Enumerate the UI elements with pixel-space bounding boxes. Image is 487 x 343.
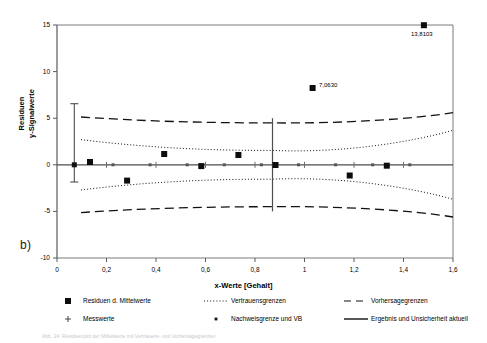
y-tick-m10: -10 (30, 254, 50, 261)
legend-label-residuen: Residuen d. Mittelwerte (81, 297, 151, 304)
prediction-limit-upper (81, 113, 453, 123)
figure-caption-fragment: Abb. 24: Residuenplot der Mittelwerte mi… (42, 333, 442, 339)
x-tick-04: 0,4 (146, 266, 166, 273)
dashed-line-icon (343, 296, 369, 306)
y-axis-title-line1: Residuen (17, 97, 26, 131)
panel-label: b) (20, 238, 31, 252)
result-uncertainty-errorbar (70, 104, 78, 182)
y-tick-0: 0 (30, 161, 50, 168)
residual-plot-figure: 15 10 5 0 -5 -10 0 0,2 0,4 0,6 0,8 1 1,2… (0, 0, 487, 343)
x-tick-0: 0 (47, 266, 67, 273)
y-axis-title: Residuen y-Signalwerte (17, 66, 36, 162)
confidence-limit-lower (81, 179, 453, 200)
legend-item-vorhersagegrenzen: Vorhersagegrenzen (343, 293, 475, 308)
prediction-limit-lower (81, 207, 453, 217)
y-tick-15: 15 (30, 21, 50, 28)
legend: Residuen d. Mittelwerte Vertrauensgrenze… (55, 293, 475, 327)
legend-label-nachweisgrenze: Nachweisgrenze und VB (229, 315, 302, 322)
annotation-7-0630: 7,0630 (319, 82, 337, 88)
x-tick-06: 0,6 (196, 266, 216, 273)
x-axis-title: x-Werte [Gehalt] (0, 281, 487, 290)
legend-label-vertrauensgrenzen: Vertrauensgrenzen (229, 297, 286, 304)
x-tick-02: 0,2 (97, 266, 117, 273)
legend-label-messwerte: Messwerte (81, 315, 114, 322)
legend-item-residuen: Residuen d. Mittelwerte (55, 293, 203, 308)
solid-line-icon (343, 314, 369, 324)
plot-canvas (0, 0, 487, 343)
dotted-line-icon (203, 296, 229, 306)
x-tick-08: 0,8 (245, 266, 265, 273)
small-dot-marker-icon (203, 314, 229, 324)
legend-item-vertrauensgrenzen: Vertrauensgrenzen (203, 293, 343, 308)
x-tick-14: 1,4 (394, 266, 414, 273)
legend-label-vorhersagegrenzen: Vorhersagegrenzen (369, 297, 428, 304)
x-tick-16: 1,6 (443, 266, 463, 273)
x-tick-1: 1 (295, 266, 315, 273)
legend-row-1: Residuen d. Mittelwerte Vertrauensgrenze… (55, 293, 475, 308)
legend-item-ergebnis: Ergebnis und Unsicherheit aktuell (343, 311, 475, 326)
legend-item-nachweisgrenze: Nachweisgrenze und VB (203, 311, 343, 326)
confidence-limit-upper (81, 130, 453, 151)
legend-row-2: Messwerte Nachweisgrenze und VB Ergebnis… (55, 311, 475, 326)
y-tick-m5: -5 (30, 207, 50, 214)
legend-item-messwerte: Messwerte (55, 311, 203, 326)
plus-marker-icon (55, 314, 81, 324)
x-axis-ticks (57, 258, 453, 262)
legend-label-ergebnis: Ergebnis und Unsicherheit aktuell (369, 315, 468, 322)
x-tick-12: 1,2 (344, 266, 364, 273)
residual-mean-markers (87, 22, 427, 183)
annotation-13-8103: 13,8103 (411, 31, 433, 37)
filled-square-marker-icon (55, 296, 81, 306)
y-axis-title-line2: y-Signalwerte (26, 89, 35, 138)
plot-frame (57, 25, 453, 258)
